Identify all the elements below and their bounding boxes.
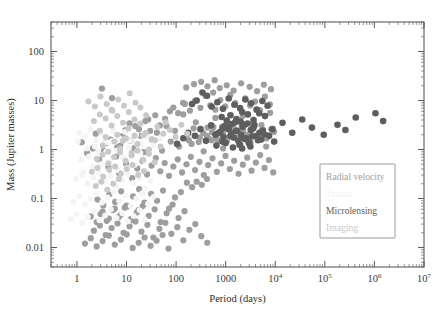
- data-point: [199, 182, 205, 188]
- data-point: [117, 149, 123, 155]
- data-point: [106, 167, 112, 173]
- data-point: [127, 90, 133, 96]
- data-point: [105, 149, 111, 155]
- data-point: [254, 88, 260, 94]
- data-point: [92, 104, 98, 110]
- data-point: [242, 96, 249, 103]
- data-point: [180, 237, 186, 243]
- data-point: [85, 181, 91, 187]
- data-point: [128, 153, 134, 159]
- data-point: [110, 181, 116, 187]
- data-point: [111, 154, 117, 160]
- data-point: [188, 154, 194, 160]
- data-point: [201, 148, 207, 154]
- y-tick-label: 100: [28, 46, 44, 57]
- data-point: [380, 118, 387, 125]
- data-point: [184, 131, 190, 137]
- data-point: [158, 144, 164, 150]
- data-point: [92, 144, 98, 150]
- data-point: [204, 176, 210, 182]
- data-point: [214, 99, 221, 106]
- data-point: [114, 215, 120, 221]
- data-point: [93, 191, 99, 197]
- data-point: [109, 95, 115, 101]
- data-point: [104, 187, 110, 193]
- data-point: [231, 87, 237, 93]
- data-point: [114, 132, 120, 138]
- data-point: [372, 110, 379, 117]
- data-point: [111, 189, 117, 195]
- data-point: [352, 114, 359, 121]
- data-point: [115, 96, 121, 102]
- data-point: [108, 173, 114, 179]
- data-point: [239, 145, 246, 152]
- data-point: [91, 118, 97, 124]
- data-point: [279, 120, 286, 127]
- data-point: [241, 136, 248, 143]
- y-tick-label: 10: [34, 95, 45, 106]
- data-point: [199, 89, 206, 96]
- data-point: [159, 232, 165, 238]
- data-point: [152, 159, 158, 165]
- x-tick-label: 106: [367, 272, 382, 284]
- data-point: [192, 167, 198, 173]
- data-point: [126, 125, 132, 131]
- data-point: [132, 133, 138, 139]
- data-point: [122, 193, 128, 199]
- data-point: [210, 89, 216, 95]
- data-point: [208, 122, 215, 129]
- data-point: [88, 235, 94, 241]
- data-point: [220, 125, 227, 132]
- data-point: [218, 160, 224, 166]
- data-point: [85, 99, 91, 105]
- x-tick-label: 107: [417, 272, 432, 284]
- data-point: [183, 161, 189, 167]
- data-point: [154, 124, 160, 130]
- data-point: [235, 171, 241, 177]
- data-point: [230, 134, 237, 141]
- legend-label: Radial velocity: [326, 171, 385, 182]
- data-point: [227, 112, 234, 119]
- data-point: [125, 219, 131, 225]
- data-point: [134, 141, 140, 147]
- data-point: [160, 131, 166, 137]
- data-point: [131, 213, 137, 219]
- data-point: [123, 135, 129, 141]
- data-point: [173, 134, 179, 140]
- data-point: [230, 144, 237, 151]
- data-point: [152, 137, 158, 143]
- data-point: [266, 133, 273, 140]
- x-axis-title: Period (days): [209, 293, 266, 305]
- series-microlensing: [174, 89, 387, 151]
- data-point: [187, 108, 193, 114]
- data-point: [208, 103, 215, 110]
- data-point: [184, 180, 190, 186]
- data-point: [108, 225, 114, 231]
- data-point: [247, 84, 253, 90]
- data-point: [222, 153, 228, 159]
- data-point: [203, 138, 210, 145]
- data-point: [91, 228, 97, 234]
- data-point: [240, 162, 246, 168]
- data-point: [169, 202, 175, 208]
- data-point: [198, 233, 204, 239]
- data-point: [174, 224, 180, 230]
- data-point: [129, 162, 135, 168]
- data-point: [100, 174, 106, 180]
- data-point: [137, 120, 143, 126]
- data-point: [255, 137, 262, 144]
- data-point: [111, 139, 117, 145]
- data-point: [91, 174, 97, 180]
- data-point: [73, 176, 79, 182]
- data-point: [140, 157, 146, 163]
- data-point: [140, 132, 146, 138]
- data-point: [166, 173, 172, 179]
- data-point: [289, 129, 296, 136]
- data-point: [227, 166, 233, 172]
- data-point: [153, 238, 159, 244]
- data-point: [156, 226, 162, 232]
- data-point: [250, 117, 257, 124]
- data-point: [194, 179, 200, 185]
- data-point: [152, 206, 158, 212]
- data-point: [79, 172, 85, 178]
